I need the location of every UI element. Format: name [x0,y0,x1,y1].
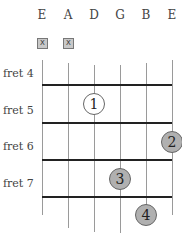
fret-line-4 [42,84,172,86]
mute-x-icon-a: X [63,38,74,49]
string-name-high-e: E [164,8,180,22]
fret-label-7: fret 7 [3,177,34,190]
string-name-b: B [138,8,154,22]
fret-line-6 [42,159,172,161]
string-name-low-e: E [34,8,50,22]
string-name-g: G [112,8,128,22]
finger-dot-3: 3 [109,168,131,190]
string-line-g [120,65,121,233]
string-line-d [94,65,95,232]
string-name-d: D [86,8,102,22]
string-line-a [68,63,69,228]
fret-line-5 [42,122,172,124]
fret-label-5: fret 5 [3,104,34,117]
fret-line-7 [42,196,172,198]
fret-label-4: fret 4 [3,67,34,80]
mute-x-icon-low-e: X [37,38,48,49]
string-line-b [146,63,147,224]
finger-dot-1: 1 [83,93,105,115]
finger-dot-4: 4 [135,204,157,226]
fret-label-6: fret 6 [3,140,34,153]
finger-dot-2: 2 [161,131,182,153]
string-name-a: A [60,8,76,22]
